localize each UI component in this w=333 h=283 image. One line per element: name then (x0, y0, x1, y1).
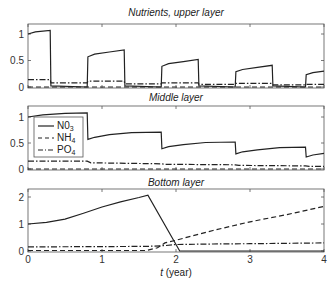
y-tick-label: 0.5 (10, 138, 24, 149)
upper-panel-title: Nutrients, upper layer (128, 7, 224, 18)
x-tick-label: 2 (173, 254, 179, 265)
legend: N03 NH4 PO4 (34, 117, 83, 157)
middle-panel-title: Middle layer (149, 92, 204, 103)
upper-layer-plot: 00.51 (10, 24, 324, 93)
bottom-layer-plot: 01201234 (18, 189, 327, 265)
x-tick-label: 0 (25, 254, 31, 265)
bottom-panel-title: Bottom layer (148, 177, 205, 188)
series-no3-line (28, 195, 324, 251)
plot-frame (28, 24, 324, 88)
y-tick-label: 0.5 (10, 55, 24, 66)
x-tick-label: 1 (99, 254, 105, 265)
y-tick-label: 0 (18, 82, 24, 93)
nutrient-chart: Nutrients, upper layer Middle layer Bott… (0, 0, 333, 283)
x-axis-label: t (year) (160, 267, 192, 278)
y-tick-label: 1 (18, 29, 24, 40)
y-tick-label: 0 (18, 246, 24, 257)
x-tick-label: 3 (247, 254, 253, 265)
plot-frame (28, 189, 324, 252)
y-tick-label: 1 (18, 219, 24, 230)
y-tick-label: 1 (18, 112, 24, 123)
x-tick-label: 4 (321, 254, 327, 265)
series-no3-line (28, 30, 324, 87)
y-tick-label: 2 (18, 192, 24, 203)
series-po4-line (28, 80, 324, 85)
y-tick-label: 0 (18, 164, 24, 175)
series-po4-line (28, 161, 324, 166)
